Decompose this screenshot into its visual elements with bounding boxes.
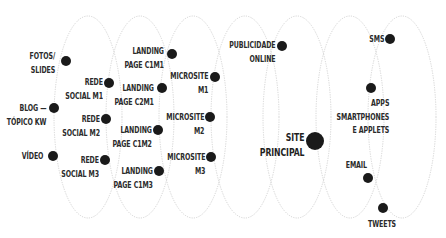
dot-landing-page-c1m2 [153, 125, 163, 135]
dot-rede-social-m2 [101, 114, 111, 124]
label-line: LANDING [125, 45, 164, 59]
label-line: PUBLICIDADE [230, 39, 276, 53]
dot-site-principal [306, 132, 324, 150]
label-line: TÓPICO KW [6, 116, 46, 130]
dot-sms [385, 34, 395, 44]
label-landing-page-c1m1: LANDING PAGE C1M1 [125, 45, 164, 72]
label-line: VÍDEO [21, 150, 43, 164]
label-line: APPS [336, 97, 389, 111]
label-line: REDE [62, 113, 100, 127]
label-line: M1 [170, 84, 208, 98]
label-microsite-m1: MICROSITE M1 [170, 70, 208, 97]
label-line: SITE [259, 130, 304, 145]
label-line: BLOG — [6, 102, 46, 116]
label-line: ONLINE [230, 53, 276, 67]
dot-blog-topico-kw [49, 103, 59, 113]
label-rede-social-m1: REDE SOCIAL M1 [65, 76, 103, 103]
label-landing-page-c1m3: LANDING PAGE C1M3 [114, 165, 153, 192]
label-email: EMAIL [346, 159, 367, 173]
label-line: E APPLETS [336, 124, 389, 138]
label-microsite-m2: MICROSITE M2 [166, 111, 204, 138]
label-site-principal: SITE PRINCIPAL [259, 130, 304, 160]
dot-apps-smartphones-applets [366, 83, 376, 93]
label-line: LANDING [114, 165, 153, 179]
label-video: VÍDEO [21, 150, 43, 164]
label-line: REDE [61, 154, 99, 168]
label-line: FOTOS/ [29, 50, 55, 64]
dot-microsite-m1 [210, 72, 220, 82]
dot-publicidade-online [277, 41, 287, 51]
label-line: MICROSITE [170, 70, 208, 84]
label-landing-page-c1m2: LANDING PAGE C1M2 [113, 124, 152, 151]
label-line: PAGE C1M2 [113, 138, 152, 152]
dot-email [363, 173, 373, 183]
label-line: M3 [167, 165, 205, 179]
dot-landing-page-c1m1 [167, 49, 177, 59]
label-line: LANDING [113, 124, 152, 138]
label-line: SOCIAL M1 [65, 90, 103, 104]
label-rede-social-m3: REDE SOCIAL M3 [61, 154, 99, 181]
label-line: SLIDES [29, 64, 55, 78]
label-sms: SMS [369, 33, 384, 47]
label-line: LANDING [115, 82, 154, 96]
label-line: EMAIL [346, 159, 367, 173]
dot-rede-social-m1 [104, 78, 114, 88]
label-line: MICROSITE [166, 111, 204, 125]
label-rede-social-m2: REDE SOCIAL M2 [62, 113, 100, 140]
label-line: MICROSITE [167, 151, 205, 165]
label-line: M2 [166, 125, 204, 139]
label-fotos-slides: FOTOS/ SLIDES [29, 50, 55, 77]
dot-microsite-m3 [206, 152, 216, 162]
label-blog-topico-kw: BLOG — TÓPICO KW [6, 102, 46, 129]
label-line: PAGE C1M1 [125, 59, 164, 73]
label-line: SMS [369, 33, 384, 47]
dot-fotos-slides [61, 56, 71, 66]
label-apps-smartphones-applets: APPS SMARTPHONES E APPLETS [336, 97, 389, 138]
dot-tweets [378, 203, 388, 213]
label-line: PAGE C2M1 [115, 96, 154, 110]
label-line: REDE [65, 76, 103, 90]
label-landing-page-c2m1: LANDING PAGE C2M1 [115, 82, 154, 109]
label-publicidade-online: PUBLICIDADE ONLINE [230, 39, 276, 66]
label-line: SMARTPHONES [336, 111, 389, 125]
label-line: SOCIAL M3 [61, 168, 99, 182]
label-microsite-m3: MICROSITE M3 [167, 151, 205, 178]
dot-rede-social-m3 [100, 155, 110, 165]
label-line: PAGE C1M3 [114, 179, 153, 193]
dot-microsite-m2 [205, 112, 215, 122]
label-line: SOCIAL M2 [62, 127, 100, 141]
dot-landing-page-c2m1 [157, 83, 167, 93]
dot-video [48, 151, 58, 161]
label-line: PRINCIPAL [259, 145, 304, 160]
label-tweets: TWEETS [366, 218, 399, 232]
label-line: TWEETS [366, 218, 399, 232]
dot-landing-page-c1m3 [154, 166, 164, 176]
